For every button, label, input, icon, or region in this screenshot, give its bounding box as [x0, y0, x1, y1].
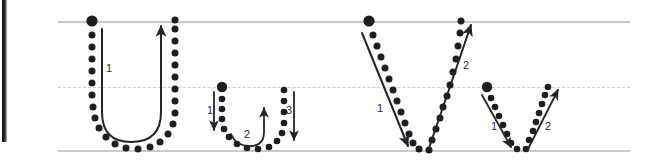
- stroke-number-uppercase-v-2: 2: [463, 60, 469, 71]
- worksheet-canvas: 1 1 2 3 1 2 1 2: [0, 0, 645, 167]
- start-dot-uppercase-v: [363, 15, 374, 26]
- stroke-number-uppercase-v-1: 1: [377, 103, 383, 114]
- letter-lowercase-u: [214, 82, 294, 153]
- stroke-number-lowercase-v-2: 2: [545, 121, 551, 132]
- dot-trail-lowercase-v: [482, 82, 552, 153]
- stroke-arrow-lowercase-v-2: [527, 90, 558, 151]
- stroke-arrow-uppercase-u-1: [102, 26, 161, 142]
- start-dot-lowercase-u: [217, 82, 227, 92]
- stroke-arrow-lowercase-u-2: [231, 108, 264, 146]
- stroke-number-lowercase-u-3: 3: [286, 105, 292, 116]
- dot-trail-uppercase-u: [86, 15, 178, 152]
- stroke-number-lowercase-v-1: 1: [491, 121, 497, 132]
- stroke-number-lowercase-u-1: 1: [207, 105, 213, 116]
- start-dot-lowercase-v: [482, 82, 492, 92]
- letter-lowercase-v: [482, 82, 558, 153]
- dot-trail-uppercase-v: [363, 15, 464, 153]
- start-dot-uppercase-u: [86, 15, 97, 26]
- stroke-number-uppercase-u-1: 1: [106, 63, 112, 74]
- letter-uppercase-u: [86, 15, 178, 152]
- letter-uppercase-v: [362, 15, 471, 153]
- letter-tracing-layer: [0, 0, 645, 167]
- stroke-number-lowercase-u-2: 2: [244, 129, 250, 140]
- dot-trail-lowercase-u: [217, 82, 288, 153]
- stroke-arrow-uppercase-v-2: [428, 25, 471, 151]
- stroke-arrow-uppercase-v-1: [362, 33, 408, 146]
